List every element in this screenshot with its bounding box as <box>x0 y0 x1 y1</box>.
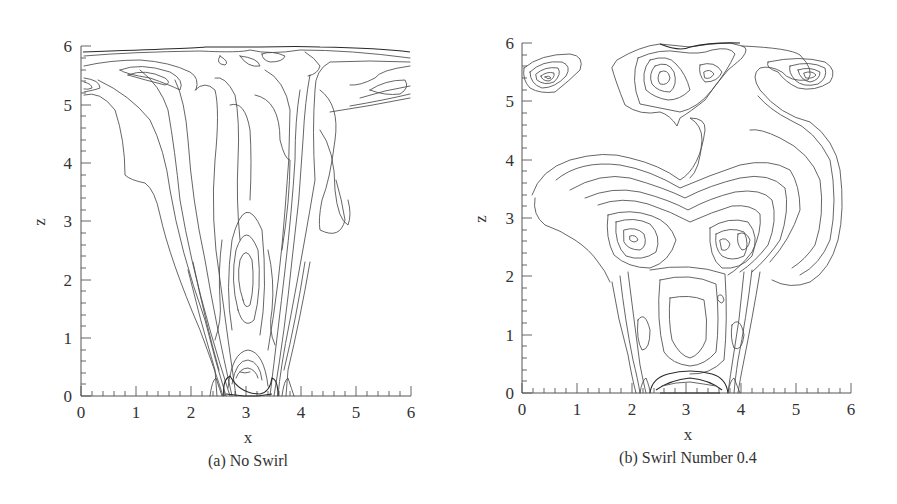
svg-text:5: 5 <box>792 400 801 419</box>
svg-text:6: 6 <box>847 400 856 419</box>
panel-b: 0 1 2 3 4 5 6 0 1 2 3 4 5 6 z x (b) Swir… <box>0 0 897 504</box>
svg-text:1: 1 <box>506 326 515 345</box>
contour-plot-b: 0 1 2 3 4 5 6 0 1 2 3 4 5 6 z x (b) Swir… <box>0 0 897 504</box>
x-tick-labels-b: 0 1 2 3 4 5 6 <box>518 400 856 419</box>
svg-text:6: 6 <box>506 34 515 53</box>
svg-text:3: 3 <box>682 400 691 419</box>
svg-text:3: 3 <box>506 209 515 228</box>
contours-b <box>524 43 842 393</box>
svg-text:0: 0 <box>518 400 527 419</box>
caption-b: (b) Swirl Number 0.4 <box>619 449 757 467</box>
svg-text:4: 4 <box>506 151 515 170</box>
x-ticks-b <box>522 383 851 393</box>
svg-text:4: 4 <box>737 400 746 419</box>
y-tick-labels-b: 0 1 2 3 4 5 6 <box>506 34 515 403</box>
y-axis-label-b: z <box>471 215 490 223</box>
axes-b <box>522 43 851 393</box>
svg-text:0: 0 <box>506 384 515 403</box>
x-axis-label-b: x <box>684 425 693 444</box>
svg-text:2: 2 <box>628 400 637 419</box>
svg-text:5: 5 <box>506 92 515 111</box>
svg-text:1: 1 <box>573 400 582 419</box>
svg-text:2: 2 <box>506 267 515 286</box>
y-ticks-b <box>522 43 532 393</box>
